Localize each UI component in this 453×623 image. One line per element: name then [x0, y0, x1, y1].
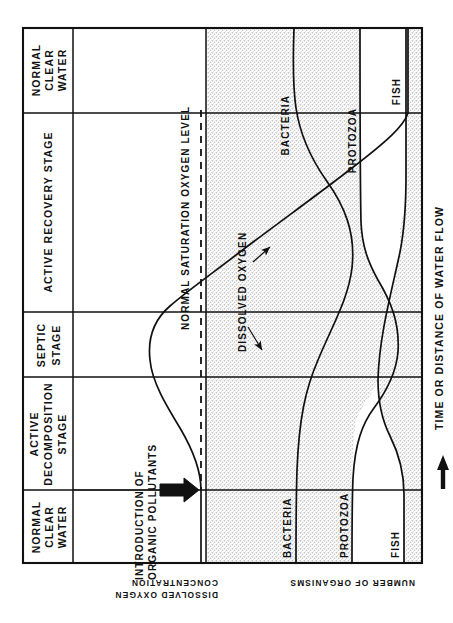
stage-label-line: SEPTIC	[35, 323, 47, 368]
axis-label-dissolved-oxygen: CONCENTRATION DISSOLVED OXYGEN	[114, 578, 218, 600]
organism-label-bacteria-bottom: BACTERIA	[282, 498, 293, 558]
flow-axis-label: TIME OR DISTANCE OF WATER FLOW	[433, 206, 445, 430]
stage-label-line: CLEAR	[43, 49, 55, 91]
figure-canvas: NORMAL CLEAR WATER ACTIVE RECOVERY STAGE…	[0, 0, 453, 623]
introduction-label-line2: ORGANIC POLLUTANTS	[147, 444, 158, 580]
stage-label-line: DECOMPOSITION	[42, 382, 54, 486]
organism-label-fish-top: FISH	[391, 78, 402, 105]
stage-label-active-decomposition-stage: ACTIVE DECOMPOSITION STAGE	[28, 382, 68, 486]
stage-label-line: WATER	[56, 506, 68, 549]
oxygen-sag-diagram: NORMAL CLEAR WATER ACTIVE RECOVERY STAGE…	[0, 0, 453, 623]
stage-label-septic-stage: SEPTIC STAGE	[35, 323, 62, 368]
axis-label-number-of-organisms: NUMBER OF ORGANISMS	[289, 578, 415, 588]
axis-label-line-1: CONCENTRATION	[131, 578, 218, 588]
stage-label-line: CLEAR	[43, 506, 55, 548]
stage-label-line: NORMAL	[30, 501, 42, 554]
stage-label-line: ACTIVE RECOVERY STAGE	[42, 131, 54, 292]
dissolved-oxygen-label: DISSOLVED OXYGEN	[237, 232, 248, 352]
stage-label-line: NORMAL	[30, 44, 42, 97]
stage-label-line: STAGE	[56, 414, 68, 455]
organism-label-bacteria-top: BACTERIA	[280, 95, 291, 155]
stage-label-normal-clear-water-top: NORMAL CLEAR WATER	[30, 44, 68, 97]
organism-label-fish-bottom: FISH	[390, 531, 401, 558]
stage-label-normal-clear-water-bottom: NORMAL CLEAR WATER	[30, 501, 68, 554]
flow-arrow-icon	[437, 455, 449, 489]
stage-label-line: WATER	[56, 49, 68, 92]
stage-label-line: STAGE	[50, 325, 62, 366]
stage-label-active-recovery-stage: ACTIVE RECOVERY STAGE	[42, 131, 54, 292]
stage-label-line: ACTIVE	[28, 411, 40, 456]
organism-label-protozoa-top: PROTOZOA	[347, 108, 358, 173]
introduction-label-line1: INTRODUCTION OF	[134, 470, 145, 580]
pollutant-arrow-icon	[160, 478, 199, 502]
organism-label-protozoa-bottom: PROTOZOA	[339, 493, 350, 558]
axis-label-line-2: DISSOLVED OXYGEN	[114, 590, 218, 600]
